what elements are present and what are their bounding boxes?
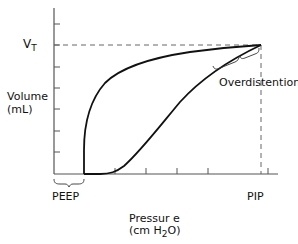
- pip-label: PIP: [247, 191, 264, 203]
- y-axis-title-line1: Volume: [7, 90, 48, 103]
- peep-brace: [54, 179, 84, 187]
- x-axis-title-line2: (cm H2O): [129, 225, 181, 240]
- overdistention-label: Overdistention: [219, 77, 298, 89]
- deflation-curve: [84, 45, 261, 174]
- inflation-curve: [84, 45, 261, 174]
- peep-label: PEEP: [52, 191, 79, 203]
- tidal-volume-label: VT: [23, 38, 37, 54]
- x-axis-ticks: [115, 168, 268, 174]
- pressure-volume-loop-diagram: [0, 0, 298, 244]
- y-axis-title: Volume (mL): [7, 90, 48, 116]
- x-axis-title: Pressur e (cm H2O): [129, 213, 181, 240]
- y-axis-ticks: [54, 24, 60, 152]
- y-axis-title-line2: (mL): [7, 103, 48, 116]
